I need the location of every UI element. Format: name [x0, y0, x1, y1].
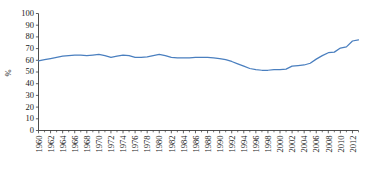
x-tick-label: 1978 [142, 136, 152, 153]
line-chart: 0102030405060708090100 19601962196419661… [0, 0, 366, 183]
data-series-group [39, 40, 359, 70]
x-tick-label: 1974 [118, 135, 128, 153]
y-tick-label: 30 [26, 90, 35, 100]
x-tick-label: 2008 [324, 136, 334, 153]
x-tick-label: 2012 [348, 136, 358, 153]
chart-plot-area: 0102030405060708090100 19601962196419661… [0, 0, 366, 183]
x-tick-label: 2006 [311, 136, 321, 153]
y-tick-label: 70 [26, 43, 35, 53]
y-tick-label: 90 [26, 20, 35, 30]
y-tick-label: 20 [26, 102, 35, 112]
x-tick-label: 1966 [70, 136, 80, 153]
y-tick-label: 40 [26, 78, 35, 88]
x-tick-label: 1996 [251, 136, 261, 153]
y-tick-label: 60 [26, 55, 35, 65]
x-tick-label: 1984 [179, 135, 189, 153]
x-axis: 1960196219641966196819701972197419761978… [34, 131, 359, 153]
x-tick-label: 1976 [130, 136, 140, 153]
x-tick-label: 1964 [58, 135, 68, 153]
x-tick-label: 1962 [46, 136, 56, 153]
x-tick-label: 2004 [299, 135, 309, 153]
y-tick-label: 0 [30, 125, 34, 135]
x-tick-label: 1992 [227, 136, 237, 153]
y-tick-label: 100 [21, 8, 34, 18]
x-tick-label: 2002 [287, 136, 297, 153]
x-tick-label: 1972 [106, 136, 116, 153]
x-tick-label: 1998 [263, 136, 273, 153]
x-tick-label: 1960 [34, 136, 44, 153]
y-axis: 0102030405060708090100 [21, 8, 38, 135]
x-tick-label: 2010 [336, 136, 346, 153]
y-tick-label: 80 [26, 31, 35, 41]
x-tick-label: 1988 [203, 136, 213, 153]
x-tick-label: 1986 [191, 136, 201, 153]
x-tick-label: 1982 [167, 136, 177, 153]
x-tick-label: 1968 [82, 136, 92, 153]
x-tick-label: 1994 [239, 135, 249, 153]
y-axis-title: % [3, 69, 13, 76]
x-tick-label: 1980 [154, 136, 164, 153]
x-tick-label: 2000 [275, 136, 285, 153]
y-tick-label: 10 [26, 113, 35, 123]
data-line-series-1 [39, 40, 359, 70]
x-tick-label: 1970 [94, 136, 104, 153]
y-tick-label: 50 [26, 66, 35, 76]
x-tick-label: 1990 [215, 136, 225, 153]
